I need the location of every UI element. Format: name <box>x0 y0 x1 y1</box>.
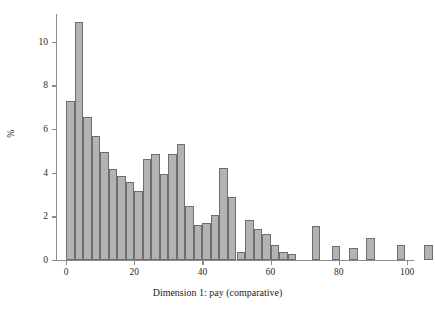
histogram-plot-area: 020406080100 0246810 <box>0 0 435 311</box>
y-axis-tick-label: 4 <box>22 168 48 178</box>
y-axis-line <box>56 14 57 261</box>
histogram-bar <box>262 234 271 260</box>
y-axis-title: % <box>5 129 16 137</box>
histogram-bar <box>194 225 203 260</box>
chart-page: 020406080100 0246810 Dimension 1: pay (c… <box>0 0 435 311</box>
histogram-bar <box>288 254 297 260</box>
x-axis-tick <box>407 261 408 265</box>
histogram-bar <box>168 154 177 260</box>
x-axis-tick <box>202 261 203 265</box>
x-axis-title: Dimension 1: pay (comparative) <box>0 287 435 298</box>
y-axis-tick-label: 8 <box>22 80 48 90</box>
y-axis-tick <box>52 173 56 174</box>
x-axis-tick-label: 80 <box>324 266 354 278</box>
y-axis-tick <box>52 42 56 43</box>
y-axis-tick-label: 6 <box>22 124 48 134</box>
histogram-bar <box>117 176 126 260</box>
x-axis-tick-label: 40 <box>187 266 217 278</box>
histogram-bar <box>271 245 280 260</box>
histogram-bar <box>92 136 101 260</box>
x-axis-tick <box>134 261 135 265</box>
histogram-bar <box>185 206 194 260</box>
y-axis-tick-label: 0 <box>22 255 48 265</box>
histogram-bar <box>177 144 186 260</box>
histogram-bar <box>424 245 433 260</box>
y-axis-tick <box>52 85 56 86</box>
histogram-bar <box>75 22 84 260</box>
x-axis-tick <box>339 261 340 265</box>
histogram-bar <box>83 117 92 260</box>
x-axis-tick-label: 20 <box>119 266 149 278</box>
x-axis-tick-label: 0 <box>51 266 81 278</box>
x-axis-tick <box>271 261 272 265</box>
y-axis-tick <box>52 129 56 130</box>
histogram-bar <box>143 159 152 260</box>
histogram-bar <box>66 101 75 260</box>
histogram-bar <box>312 226 321 260</box>
histogram-bar <box>349 248 358 260</box>
histogram-bar <box>397 245 406 260</box>
y-axis-tick <box>52 216 56 217</box>
histogram-bar <box>245 220 254 260</box>
histogram-bar <box>211 215 220 260</box>
histogram-bar <box>202 223 211 260</box>
histogram-bar <box>254 229 263 260</box>
y-axis-tick-label: 2 <box>22 211 48 221</box>
histogram-bar <box>228 197 237 260</box>
x-axis-tick <box>66 261 67 265</box>
y-axis-tick-label: 10 <box>22 37 48 47</box>
histogram-bar <box>151 154 160 260</box>
histogram-bar <box>219 168 228 260</box>
histogram-bar <box>109 169 118 260</box>
histogram-bar <box>237 252 246 260</box>
histogram-bar <box>160 174 169 260</box>
histogram-bar <box>126 182 135 260</box>
x-axis-line <box>56 260 414 261</box>
y-axis-tick <box>52 260 56 261</box>
histogram-bar <box>100 152 109 260</box>
histogram-bar <box>332 246 341 260</box>
histogram-bar <box>279 252 288 260</box>
histogram-bar <box>134 191 143 260</box>
x-axis-tick-label: 100 <box>392 266 422 278</box>
histogram-bar <box>366 238 375 260</box>
x-axis-tick-label: 60 <box>256 266 286 278</box>
